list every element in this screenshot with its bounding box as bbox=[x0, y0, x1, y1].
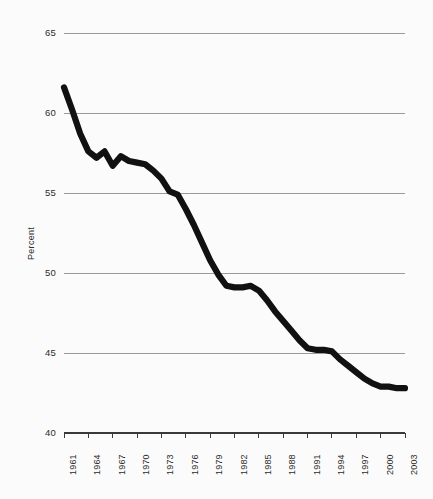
x-tick-label: 1997 bbox=[360, 454, 370, 475]
y-tick-label: 60 bbox=[34, 107, 56, 118]
x-tick-label: 1961 bbox=[68, 454, 78, 475]
x-tick-label: 1973 bbox=[165, 454, 175, 475]
x-tick-label: 1970 bbox=[141, 454, 151, 475]
x-tick-label: 1991 bbox=[312, 454, 322, 475]
data-series-line bbox=[64, 87, 405, 388]
x-tick-label: 1985 bbox=[263, 454, 273, 475]
x-tick-label: 1988 bbox=[287, 454, 297, 475]
line-chart-canvas bbox=[0, 0, 433, 499]
x-tick-label: 1967 bbox=[117, 454, 127, 475]
x-tick-label: 1964 bbox=[92, 454, 102, 475]
x-tick-label: 1982 bbox=[239, 454, 249, 475]
x-tick-label: 2000 bbox=[385, 454, 395, 475]
x-tick-label: 2003 bbox=[409, 454, 419, 475]
y-tick-label: 45 bbox=[34, 347, 56, 358]
x-tick-label: 1994 bbox=[336, 454, 346, 475]
x-axis-ticks bbox=[64, 433, 405, 438]
gridlines bbox=[64, 33, 405, 353]
x-tick-label: 1976 bbox=[190, 454, 200, 475]
chart-page: Percent 656055504540 1961196419671970197… bbox=[0, 0, 433, 499]
y-tick-label: 50 bbox=[34, 267, 56, 278]
y-tick-label: 55 bbox=[34, 187, 56, 198]
x-tick-label: 1979 bbox=[214, 454, 224, 475]
y-tick-label: 65 bbox=[34, 27, 56, 38]
y-tick-label: 40 bbox=[34, 427, 56, 438]
